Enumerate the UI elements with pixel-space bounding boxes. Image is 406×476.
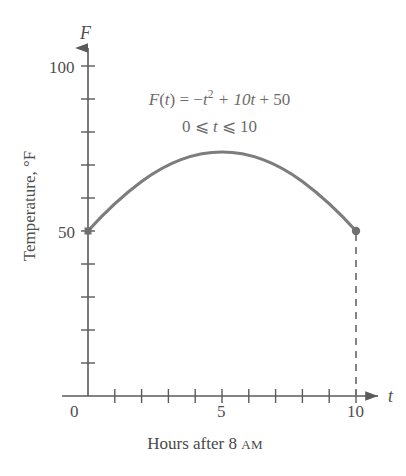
x-axis-caption: Hours after 8 AM xyxy=(60,434,350,454)
domain-le-right-symbol: ⩽ xyxy=(222,117,236,136)
domain-lower-bound: 0 xyxy=(182,117,191,136)
domain-line: 0 ⩽ t ⩽ 10 xyxy=(112,116,327,137)
x-tick-label-10: 10 xyxy=(347,403,364,420)
equation-annotation: F(t) = −t2 + 10t + 50 0 ⩽ t ⩽ 10 xyxy=(112,88,327,137)
y-tick-label-100: 100 xyxy=(49,59,75,76)
x-axis-symbol-label: t xyxy=(388,387,393,405)
equation-function-name: F xyxy=(149,90,159,109)
equation-line: F(t) = −t2 + 10t + 50 xyxy=(112,88,327,110)
left-endpoint-marker xyxy=(85,228,92,235)
right-endpoint-marker xyxy=(352,227,360,235)
figure-container: F t 100 50 0 5 10 Temperature, °F F(t) =… xyxy=(0,0,406,476)
y-axis-symbol-label: F xyxy=(80,24,91,42)
y-tick-label-50: 50 xyxy=(58,224,75,241)
x-axis-caption-smallcaps: AM xyxy=(241,437,263,452)
x-tick-label-0: 0 xyxy=(70,403,79,420)
parabola-curve xyxy=(88,152,356,231)
equation-constant-term: + 50 xyxy=(259,90,290,109)
domain-upper-bound: 10 xyxy=(240,117,257,136)
equation-leading-sign: − xyxy=(193,90,203,109)
domain-le-left-symbol: ⩽ xyxy=(195,117,209,136)
y-axis-title: Temperature, °F xyxy=(20,116,40,296)
domain-variable: t xyxy=(213,117,218,136)
x-tick-label-5: 5 xyxy=(217,403,226,420)
equation-variable: t xyxy=(165,90,170,109)
x-axis-caption-main: Hours after 8 xyxy=(147,434,237,453)
equation-linear-term: + 10t xyxy=(218,90,255,109)
equation-exponent: 2 xyxy=(208,88,214,101)
